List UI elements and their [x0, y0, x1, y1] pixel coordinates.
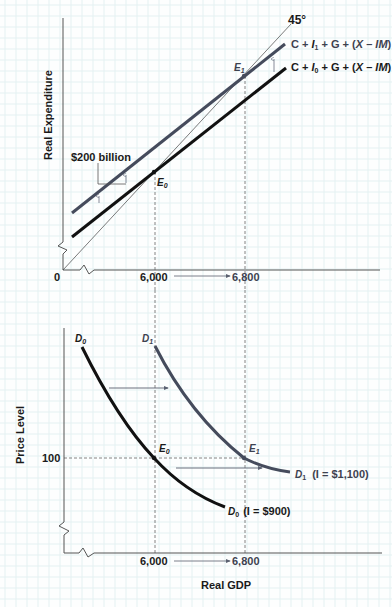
x-tick-6800-bottom: 6,800	[232, 555, 260, 567]
line-label-i1: C + I1 + G + (X – IM)	[291, 38, 392, 51]
bottom-panel: Price Level 100 6,000 6,800 Real GDP D0 …	[14, 290, 382, 591]
equilibrium-point-e0-top	[152, 170, 156, 174]
label-d0-top: D0	[75, 333, 86, 345]
demand-curve-d1	[155, 346, 290, 472]
label-e1-top: E1	[234, 62, 245, 74]
label-e1-bottom: E1	[249, 443, 260, 455]
top-y-axis	[58, 18, 67, 270]
x-tick-6000-top: 6,000	[140, 271, 168, 283]
equilibrium-point-e1-top	[242, 74, 246, 78]
label-d1-end: D1(I = $1,100)	[295, 468, 369, 481]
x-tick-6800-top: 6,800	[232, 271, 260, 283]
line-label-i0: C + I0 + G + (X – IM)	[291, 61, 392, 74]
demand-curve-d0	[82, 347, 225, 507]
y-axis-label-bottom: Price Level	[14, 406, 26, 464]
bottom-x-axis	[64, 548, 382, 557]
x-tick-6000-bottom: 6,000	[140, 555, 168, 567]
top-panel: Real Expenditure 0 6,000 6,800 45° $200 …	[42, 13, 392, 290]
expenditure-line-i1	[72, 44, 285, 213]
label-d1-top: D1	[142, 333, 153, 345]
bottom-y-axis	[59, 328, 69, 553]
x-axis-label-bottom: Real GDP	[201, 579, 251, 591]
y-tick-100: 100	[42, 452, 60, 464]
angle-label: 45°	[288, 13, 306, 27]
top-x-axis	[63, 265, 380, 274]
equilibrium-point-e1-bottom	[242, 456, 246, 460]
forty-five-degree-line	[63, 24, 291, 270]
label-e0-top: E0	[157, 177, 168, 189]
shift-amount-label: $200 billion	[71, 151, 131, 163]
y-axis-label-top: Real Expenditure	[42, 70, 54, 160]
equilibrium-point-e0-bottom	[152, 456, 156, 460]
label-e0-bottom: E0	[159, 443, 170, 455]
chart-figure: Real Expenditure 0 6,000 6,800 45° $200 …	[0, 0, 392, 607]
origin-label: 0	[54, 271, 60, 283]
label-d0-end: D0(I = $900)	[228, 505, 291, 518]
chart-svg: Real Expenditure 0 6,000 6,800 45° $200 …	[0, 0, 392, 607]
